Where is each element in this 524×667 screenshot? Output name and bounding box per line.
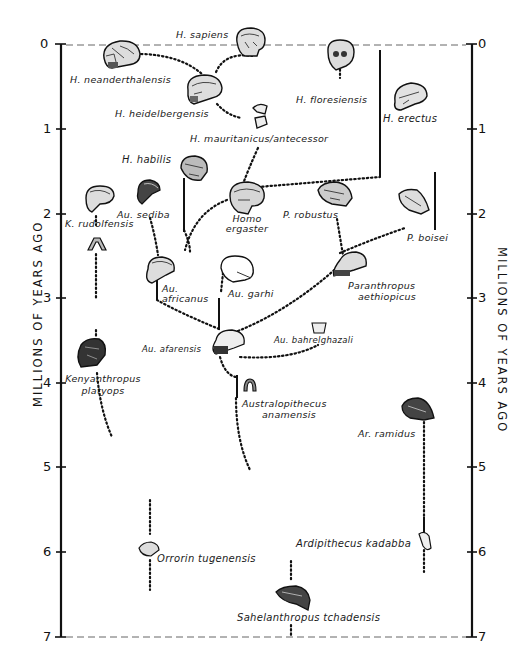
right-tick-2: 2 — [478, 206, 486, 221]
label-kenyanthropus-line2: platyops — [63, 385, 143, 396]
right-tick-1: 1 — [478, 121, 486, 136]
label-homo-ergaster-line2: ergaster — [222, 223, 272, 234]
label-sahelanthropus-tchadensis: Sahelanthropus tchadensis — [237, 612, 380, 623]
h-habilis-skull-icon — [177, 154, 211, 188]
label-h-neanderthalensis: H. neanderthalensis — [70, 74, 171, 85]
left-tick-7: 7 — [43, 629, 51, 644]
left-tick-6: 6 — [43, 544, 51, 559]
k-rudolfensis-skull-icon — [82, 184, 116, 218]
right-tick-7: 7 — [478, 629, 486, 644]
left-tick-5: 5 — [43, 459, 51, 474]
label-ar-kadabba: Ardipithecus kadabba — [296, 538, 411, 549]
au-sediba-skull-icon — [132, 178, 162, 210]
label-h-heidelbergensis: H. heidelbergensis — [115, 108, 209, 119]
label-ar-ramidus: Ar. ramidus — [358, 428, 416, 439]
hominin-phylogeny-diagram: 0 1 2 3 4 5 6 7 0 1 2 3 4 5 6 7 MILLIONS… — [0, 0, 524, 667]
h-sapiens-skull-icon — [233, 26, 267, 62]
kenyanthropus-skull-icon — [73, 335, 109, 373]
left-tick-2: 2 — [43, 206, 51, 221]
h-floresiensis-skull-icon — [324, 38, 356, 76]
right-tick-0: 0 — [478, 36, 486, 51]
label-orrorin-tugenensis: Orrorin tugenensis — [157, 553, 256, 564]
ar-ramidus-skull-icon — [398, 396, 436, 428]
label-au-africanus-line2: africanus — [162, 293, 208, 304]
label-h-erectus: H. erectus — [383, 113, 437, 124]
label-au-bahrelghazali: Au. bahrelghazali — [274, 335, 353, 346]
h-erectus-skull-icon — [389, 80, 429, 116]
left-tick-1: 1 — [43, 121, 51, 136]
label-h-habilis: H. habilis — [122, 154, 171, 165]
p-boisei-skull-icon — [395, 186, 431, 220]
label-au-garhi: Au. garhi — [228, 288, 274, 299]
left-tick-0: 0 — [40, 36, 48, 51]
right-tick-4: 4 — [478, 375, 486, 390]
label-au-anamensis-line1: Australopithecus — [242, 398, 327, 409]
label-p-robustus: P. robustus — [283, 209, 338, 220]
ar-kadabba-tooth-icon — [417, 530, 433, 556]
left-axis-title: MILLIONS OF YEARS AGO — [31, 247, 45, 407]
au-anamensis-jaw-icon — [242, 377, 258, 397]
label-k-rudolfensis: K. rudolfensis — [65, 218, 134, 229]
right-axis-title: MILLIONS OF YEARS AGO — [495, 247, 509, 407]
label-h-floresiensis: H. floresiensis — [296, 94, 367, 105]
k-rudolfensis-jaw-icon — [86, 234, 108, 256]
h-heidelbergensis-skull-icon — [182, 72, 224, 110]
right-tick-6: 6 — [478, 544, 486, 559]
label-h-sapiens: H. sapiens — [176, 29, 228, 40]
label-au-afarensis: Au. afarensis — [142, 344, 201, 355]
label-au-anamensis-line2: anamensis — [262, 409, 316, 420]
label-p-aethiopicus-line1: Paranthropus — [348, 280, 415, 291]
label-p-boisei: P. boisei — [407, 232, 448, 243]
label-kenyanthropus-line1: Kenyanthropus — [63, 373, 143, 384]
label-h-mauritanicus: H. mauritanicus/antecessor — [190, 133, 328, 144]
au-garhi-skull-icon — [217, 254, 257, 290]
right-tick-3: 3 — [478, 290, 486, 305]
au-afarensis-skull-icon — [208, 328, 248, 362]
p-aethiopicus-skull-icon — [330, 250, 370, 284]
label-p-aethiopicus-line2: aethiopicus — [358, 291, 416, 302]
right-tick-5: 5 — [478, 459, 486, 474]
h-neanderthalensis-skull-icon — [98, 38, 144, 76]
diagram-lines — [0, 0, 524, 667]
